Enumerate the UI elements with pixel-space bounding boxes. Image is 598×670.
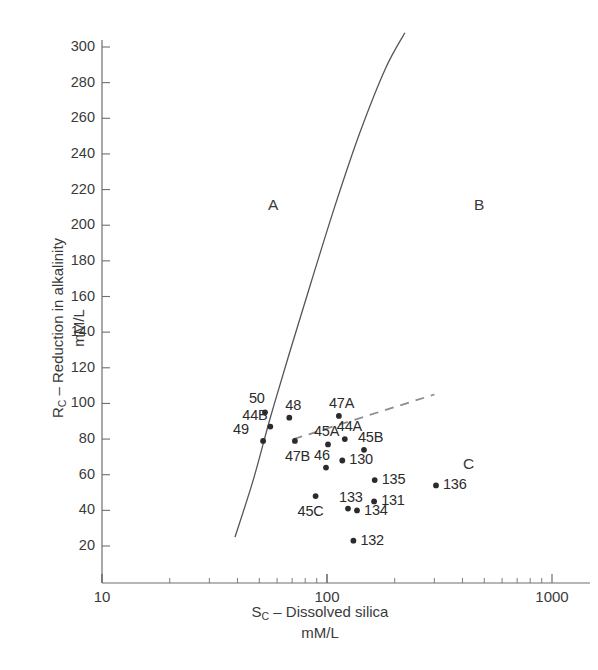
y-tick-label: 300 (55, 38, 95, 54)
data-point-label: 46 (314, 447, 330, 463)
zone-b: B (474, 196, 484, 214)
data-point (339, 458, 345, 464)
data-point (342, 436, 348, 442)
y-axis-title-units: mM/L (70, 309, 87, 347)
x-axis-title-subscript: C (262, 610, 270, 622)
zone-c: C (463, 455, 474, 473)
data-point-label: 136 (443, 476, 467, 492)
y-tick-label: 260 (55, 109, 95, 125)
data-point-label: 47B (285, 448, 310, 464)
data-point-label: 47A (329, 395, 354, 411)
x-tick-label: 10 (62, 588, 142, 605)
x-axis-title: SC – Dissolved silica mM/L (140, 602, 500, 642)
data-point (260, 438, 266, 444)
data-point (372, 477, 378, 483)
y-axis-title-subscript: C (56, 400, 68, 408)
data-point (292, 438, 298, 444)
data-point (345, 506, 351, 512)
x-axis-ticks (102, 574, 552, 583)
x-axis-title-text: – Dissolved silica (269, 603, 388, 620)
y-axis-title: RC – Reduction in alkalinity mM/L (6, 178, 52, 478)
data-point-label: 45A (314, 423, 339, 439)
data-point-label: 45C (298, 503, 324, 519)
y-tick-label: 280 (55, 74, 95, 90)
data-point (323, 465, 329, 471)
data-point-label: 49 (233, 421, 249, 437)
boundary-curves (235, 33, 434, 537)
data-point (351, 538, 357, 544)
data-point-label: 133 (339, 489, 363, 505)
data-point (433, 483, 439, 489)
y-tick-label: 240 (55, 145, 95, 161)
data-point-label: 130 (349, 451, 373, 467)
x-tick-label: 1000 (512, 588, 592, 605)
y-tick-label: 40 (55, 501, 95, 517)
data-point-label: 45B (358, 429, 383, 445)
x-axis-title-symbol: S (252, 603, 262, 620)
data-point (267, 424, 273, 430)
data-point-label: 135 (382, 471, 406, 487)
data-point-label: 131 (381, 492, 405, 508)
y-axis-ticks (102, 47, 110, 546)
data-point-label: 50 (249, 390, 265, 406)
figure-canvas: 2040608010012014016018020022024026028030… (0, 0, 598, 670)
data-point (313, 493, 319, 499)
data-point (286, 415, 292, 421)
y-axis-title-symbol: R (49, 407, 66, 418)
data-point (354, 508, 360, 514)
data-point-label: 48 (285, 397, 301, 413)
data-point-label: 132 (360, 532, 384, 548)
y-tick-label: 20 (55, 537, 95, 553)
x-axis-title-units: mM/L (301, 624, 339, 641)
zone-a: A (268, 196, 278, 214)
y-axis-title-text: – Reduction in alkalinity (49, 238, 66, 400)
